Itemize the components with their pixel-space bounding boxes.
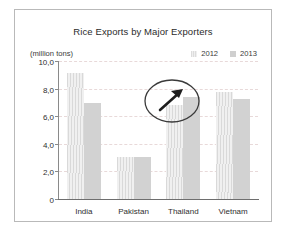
x-axis-label-vietnam: Vietnam (219, 207, 248, 216)
y-axis-tick-label: 2,0 (43, 168, 54, 177)
legend-label-2013: 2013 (240, 49, 257, 58)
x-axis-label-thailand: Thailand (168, 207, 199, 216)
bar-thailand-2013[interactable] (183, 97, 200, 201)
bar-thailand-2012[interactable] (166, 105, 183, 200)
bar-groups: IndiaPakistanThailandVietnam (59, 62, 258, 200)
bar-group: India (59, 62, 109, 200)
chart-frame: Rice Exports by Major Exporters (million… (14, 9, 272, 222)
chart-title: Rice Exports by Major Exporters (15, 26, 271, 37)
plot-area: 02,04,06,08,010,0 IndiaPakistanThailandV… (59, 62, 258, 200)
legend-item-2013[interactable]: 2013 (230, 49, 257, 58)
y-axis-tick-label: 6,0 (43, 113, 54, 122)
chart-card: Rice Exports by Major Exporters (million… (15, 10, 271, 221)
bar-pakistan-2012[interactable] (117, 157, 134, 200)
bar-group: Thailand (159, 62, 209, 200)
y-axis-tick-label: 0 (50, 196, 54, 205)
x-axis-label-india: India (75, 207, 92, 216)
bar-group: Vietnam (208, 62, 258, 200)
legend-swatch-2013 (230, 51, 236, 57)
y-axis-tick-label: 8,0 (43, 85, 54, 94)
bar-india-2013[interactable] (84, 103, 101, 200)
x-axis-line (58, 199, 259, 200)
bar-vietnam-2013[interactable] (233, 99, 250, 200)
y-axis-tick-label: 10,0 (38, 58, 54, 67)
y-axis-tick-label: 4,0 (43, 140, 54, 149)
chart-legend: 2012 2013 (191, 49, 257, 58)
bar-vietnam-2012[interactable] (216, 92, 233, 200)
legend-item-2012[interactable]: 2012 (191, 49, 218, 58)
legend-label-2012: 2012 (201, 49, 218, 58)
bar-group: Pakistan (109, 62, 159, 200)
bar-pakistan-2013[interactable] (134, 157, 151, 200)
legend-swatch-2012 (191, 51, 197, 57)
bar-india-2012[interactable] (67, 73, 84, 200)
x-axis-label-pakistan: Pakistan (118, 207, 149, 216)
